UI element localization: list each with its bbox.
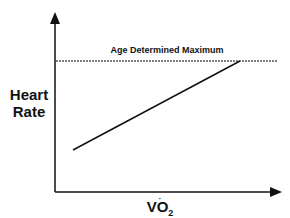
- heart-rate-line: [73, 61, 240, 150]
- y-axis-label-line1: Heart: [3, 86, 55, 103]
- age-max-label: Age Determined Maximum: [56, 45, 278, 55]
- dot-accent: ·: [130, 194, 190, 203]
- x-axis-label: · VO2: [130, 198, 190, 218]
- y-axis-label: Heart Rate: [3, 86, 55, 120]
- y-axis-label-line2: Rate: [3, 103, 55, 120]
- y-axis-arrow-icon: [50, 12, 60, 24]
- x-axis-arrow-icon: [270, 187, 282, 197]
- x-axis-label-sub: 2: [168, 208, 173, 218]
